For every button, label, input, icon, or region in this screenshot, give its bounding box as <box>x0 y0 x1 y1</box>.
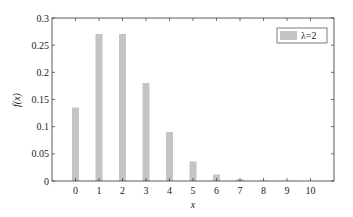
bar <box>143 83 150 181</box>
y-tick-label: 0 <box>44 176 49 187</box>
bar <box>119 34 126 181</box>
bar-series <box>72 34 314 181</box>
x-tick-label: 3 <box>144 185 149 196</box>
x-tick-label: 0 <box>73 185 78 196</box>
y-tick-label: 0.2 <box>37 67 50 78</box>
x-tick-label: 2 <box>120 185 125 196</box>
y-tick-label: 0.25 <box>32 40 50 51</box>
x-tick-label: 7 <box>238 185 243 196</box>
y-tick-label: 0.3 <box>37 13 50 24</box>
legend-swatch <box>280 31 297 40</box>
bar <box>96 34 103 181</box>
poisson-bar-chart: 00.050.10.150.20.250.3 012345678910 x f(… <box>0 0 353 217</box>
x-tick-label: 10 <box>306 185 316 196</box>
x-tick-label: 1 <box>97 185 102 196</box>
y-tick-label: 0.1 <box>37 121 50 132</box>
x-tick-label: 6 <box>214 185 219 196</box>
x-tick-label: 9 <box>285 185 290 196</box>
y-axis-label: f(x) <box>11 92 23 107</box>
bar <box>166 132 173 181</box>
x-tick-label: 4 <box>167 185 172 196</box>
legend-label: λ=2 <box>301 30 317 41</box>
legend: λ=2 <box>277 28 327 43</box>
x-tick-label: 8 <box>261 185 266 196</box>
x-tick-label: 5 <box>191 185 196 196</box>
y-tick-label: 0.15 <box>32 94 50 105</box>
x-axis-label: x <box>190 199 196 210</box>
bar <box>72 107 79 181</box>
y-tick-label: 0.05 <box>32 148 50 159</box>
